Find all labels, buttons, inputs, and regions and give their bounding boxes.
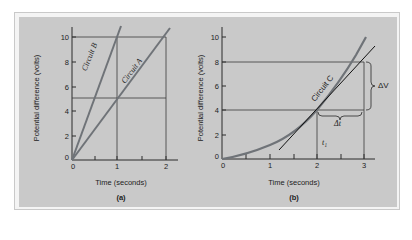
chart-b-x-tick-3: 3: [362, 161, 366, 170]
delta-t-label: Δt: [334, 119, 341, 128]
chart-b-x-axis-label: Time (seconds): [268, 178, 319, 187]
chart-a-y-tick-0: 0: [65, 153, 69, 162]
chart-b-y-tick-4: 4: [215, 106, 219, 115]
chart-a-x-tick-2: 2: [164, 162, 168, 171]
circuit-c-curve: [222, 37, 366, 159]
chart-b-y-tick-2: 2: [215, 131, 219, 140]
t1-label: t₁: [322, 138, 327, 147]
chart-b-y-tick-0: 0: [215, 152, 219, 161]
chart-b-x-tick-1: 1: [268, 161, 272, 170]
chart-b-y-axis-label: Potential difference (volts): [196, 55, 205, 142]
circuit-a-line: [72, 28, 170, 160]
chart-a-x-tick-0: 0: [71, 162, 75, 171]
chart-b: [222, 27, 375, 159]
chart-b-y-tick-6: 6: [215, 82, 219, 91]
chart-a-y-tick-10: 10: [61, 33, 69, 42]
chart-b-x-tick-2: 2: [315, 161, 319, 170]
chart-a-x-axis-label: Time (seconds): [95, 178, 146, 187]
chart-a-y-ticks: [72, 37, 76, 136]
chart-b-y-ticks: [222, 37, 226, 135]
chart-b-x-tick-0: 0: [221, 161, 225, 170]
chart-b-y-tick-8: 8: [215, 58, 219, 67]
chart-a-y-tick-8: 8: [65, 58, 69, 67]
chart-b-x-ticks: [246, 154, 364, 159]
chart-a-x-tick-1: 1: [115, 162, 119, 171]
chart-a-y-axis-label: Potential difference (volts): [32, 55, 41, 142]
chart-a-caption: (a): [116, 193, 125, 202]
chart-a-x-ticks: [95, 156, 166, 160]
chart-a-y-tick-4: 4: [65, 107, 69, 116]
chart-b-caption: (b): [289, 193, 299, 202]
chart-b-y-tick-10: 10: [211, 33, 219, 42]
chart-a-y-tick-6: 6: [65, 83, 69, 92]
delta-v-label: ΔV: [378, 81, 389, 90]
chart-a-y-tick-2: 2: [65, 132, 69, 141]
delta-v-brace: [366, 62, 375, 110]
